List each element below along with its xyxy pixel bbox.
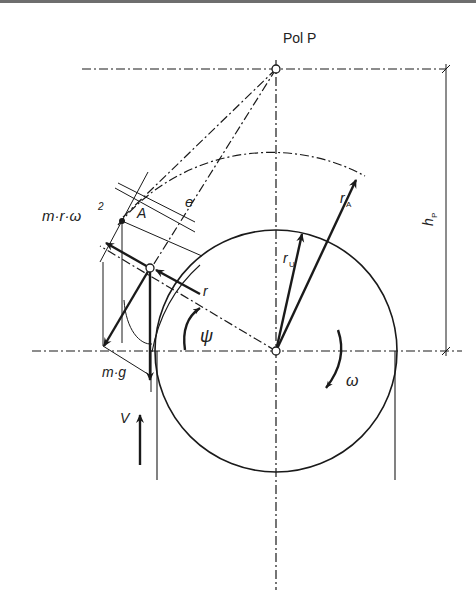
r-arrow-head [156, 270, 200, 294]
pole-label: Pol P [283, 30, 316, 46]
radius-u-label: r U [283, 250, 295, 269]
point-a-dot [119, 218, 125, 224]
centrifugal-exp-label: 2 [97, 201, 104, 212]
resultant-arrow [104, 268, 150, 346]
centrifugal-force-arrow [106, 243, 150, 268]
omega-arc-arrow [326, 330, 341, 388]
pole-height-label: h P [420, 213, 439, 226]
svg-text:h: h [420, 218, 436, 226]
radius-r-line [100, 246, 276, 351]
weight-label: m·g [102, 364, 126, 380]
svg-text:P: P [430, 213, 439, 218]
center-point [272, 347, 280, 355]
ru-arrow [276, 234, 302, 351]
bucket-outline [152, 265, 200, 352]
dim-e [115, 188, 195, 232]
bucket-elevator-diagram: Pol P m·r·ω 2 A e r r A r U ψ m·g V ω h … [0, 0, 476, 616]
pole-pivot-line [152, 69, 276, 267]
radius-r-label: r [203, 283, 209, 299]
pivot-point [146, 264, 154, 272]
pole-point [272, 65, 280, 73]
point-a-label: A [136, 205, 146, 221]
psi-arc-arrow [184, 308, 200, 350]
bucket-lip-line [122, 221, 202, 256]
arc-ra [118, 152, 365, 225]
svg-text:A: A [346, 200, 352, 209]
centrifugal-force-label: m·r·ω [42, 207, 81, 224]
angle-psi-label: ψ [200, 326, 213, 346]
svg-text:U: U [289, 260, 295, 269]
eccentricity-label: e [185, 193, 193, 210]
velocity-label: V [120, 410, 131, 426]
omega-label: ω [346, 372, 358, 389]
